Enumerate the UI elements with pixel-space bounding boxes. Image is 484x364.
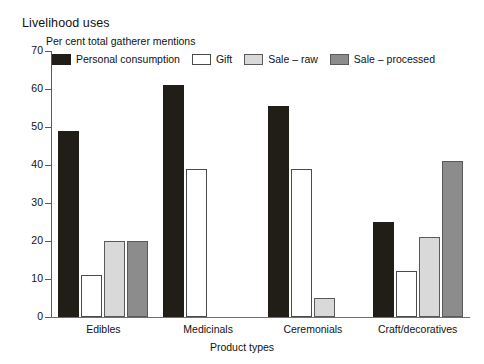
x-axis-line (51, 317, 470, 318)
bar (373, 222, 394, 317)
y-tick-label: 10 (3, 272, 43, 284)
y-tick-label-wrap: 20 (0, 241, 43, 242)
chart-legend: Personal consumptionGiftSale – rawSale –… (52, 51, 447, 67)
y-tick-label-wrap: 40 (0, 165, 43, 166)
y-tick-label-wrap: 70 (0, 51, 43, 52)
bar (104, 241, 125, 317)
bar (314, 298, 335, 317)
bar (81, 275, 102, 317)
y-tick-label: 0 (3, 310, 43, 322)
bar (442, 161, 463, 317)
legend-label: Personal consumption (76, 53, 180, 65)
y-tick-mark (45, 317, 51, 318)
bar (186, 169, 207, 317)
x-tick-label: Edibles (86, 323, 120, 335)
bar (291, 169, 312, 317)
legend-label: Sale – processed (354, 53, 435, 65)
legend-entry: Sale – raw (244, 53, 318, 65)
legend-entry: Personal consumption (52, 53, 180, 65)
bar (268, 106, 289, 317)
bar (127, 241, 148, 317)
x-axis-label: Product types (0, 341, 484, 353)
y-tick-label: 20 (3, 234, 43, 246)
legend-swatch-icon (244, 54, 263, 65)
y-tick-label-wrap: 60 (0, 89, 43, 90)
y-tick-label-wrap: 30 (0, 203, 43, 204)
bar (58, 131, 79, 317)
y-tick-label: 70 (3, 44, 43, 56)
legend-entry: Gift (192, 53, 232, 65)
y-axis-label: Per cent total gatherer mentions (46, 35, 195, 47)
legend-label: Gift (216, 53, 232, 65)
legend-swatch-icon (192, 54, 211, 65)
y-tick-label: 30 (3, 196, 43, 208)
legend-swatch-icon (52, 54, 71, 65)
legend-swatch-icon (330, 54, 349, 65)
bar (396, 271, 417, 317)
y-tick-label: 50 (3, 120, 43, 132)
chart-title: Livelihood uses (22, 16, 110, 30)
y-tick-label: 40 (3, 158, 43, 170)
bar (163, 85, 184, 317)
chart-figure: Livelihood uses Per cent total gatherer … (0, 0, 484, 364)
y-tick-label-wrap: 10 (0, 279, 43, 280)
legend-entry: Sale – processed (330, 53, 435, 65)
plot-area (51, 51, 470, 317)
bar (419, 237, 440, 317)
x-tick-label: Craft/decoratives (378, 323, 457, 335)
x-tick-label: Ceremonials (283, 323, 342, 335)
y-tick-label: 60 (3, 82, 43, 94)
y-tick-label-wrap: 50 (0, 127, 43, 128)
x-tick-label: Medicinals (183, 323, 233, 335)
y-tick-label-wrap: 0 (0, 317, 43, 318)
legend-label: Sale – raw (268, 53, 318, 65)
